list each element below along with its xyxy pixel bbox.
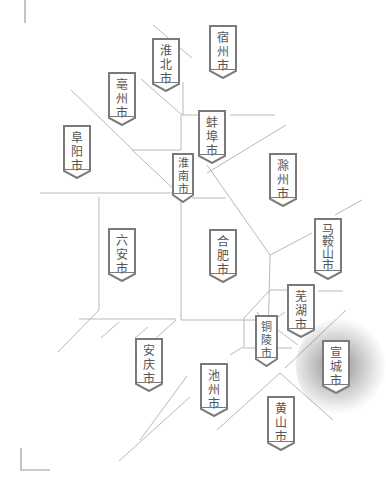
city-char: 池 xyxy=(208,369,220,383)
city-char: 南 xyxy=(178,170,189,183)
city-char: 市 xyxy=(116,106,128,120)
city-char: 六 xyxy=(116,234,128,248)
city-char: 亳 xyxy=(116,78,128,92)
city-char: 埠 xyxy=(206,130,218,144)
city-char: 铜 xyxy=(261,321,272,334)
city-badge-chizhou[interactable]: 池州市 xyxy=(200,363,228,417)
city-badge-chuzhou[interactable]: 滁州市 xyxy=(269,153,297,207)
city-badge-hefei[interactable]: 合肥市 xyxy=(209,229,237,283)
city-char: 宿 xyxy=(217,31,229,45)
city-badge-maanshan[interactable]: 马鞍山市 xyxy=(314,218,342,280)
city-char: 市 xyxy=(295,318,307,332)
city-char: 市 xyxy=(217,263,229,277)
city-char: 市 xyxy=(277,187,289,201)
city-char: 安 xyxy=(116,248,128,262)
city-char: 山 xyxy=(275,416,287,430)
city-badge-huaibei[interactable]: 淮北市 xyxy=(152,38,180,92)
city-char: 淮 xyxy=(160,44,172,58)
city-char: 芜 xyxy=(295,290,307,304)
city-char: 市 xyxy=(275,430,287,444)
city-badge-tongling[interactable]: 铜陵市 xyxy=(255,315,278,367)
city-char: 州 xyxy=(277,173,289,187)
city-badge-anqing[interactable]: 安庆市 xyxy=(135,338,163,392)
city-badge-suzhou[interactable]: 宿州市 xyxy=(209,25,237,79)
city-char: 蚌 xyxy=(206,116,218,130)
city-char: 城 xyxy=(330,360,342,374)
city-badge-bengbu[interactable]: 蚌埠市 xyxy=(198,110,226,164)
city-badge-xuancheng[interactable]: 宣城市 xyxy=(322,340,350,394)
city-char: 合 xyxy=(217,235,229,249)
city-char: 市 xyxy=(116,262,128,276)
city-char: 市 xyxy=(206,144,218,158)
city-char: 市 xyxy=(178,183,189,196)
city-char: 陵 xyxy=(261,334,272,347)
city-char: 庆 xyxy=(143,358,155,372)
frame-bottom-left xyxy=(21,448,50,470)
city-badge-wuhu[interactable]: 芜湖市 xyxy=(287,284,315,338)
city-badge-luan[interactable]: 六安市 xyxy=(108,228,136,282)
city-char: 淮 xyxy=(178,157,189,170)
city-char: 黄 xyxy=(275,402,287,416)
city-badge-fuyang[interactable]: 阜阳市 xyxy=(63,125,91,179)
city-char: 州 xyxy=(217,45,229,59)
city-char: 湖 xyxy=(295,304,307,318)
city-char: 市 xyxy=(208,397,220,411)
city-char: 安 xyxy=(143,344,155,358)
city-char: 肥 xyxy=(217,249,229,263)
city-char: 市 xyxy=(330,374,342,388)
city-char: 州 xyxy=(208,383,220,397)
city-char: 市 xyxy=(261,347,272,360)
city-char: 市 xyxy=(160,72,172,86)
city-char: 市 xyxy=(322,260,334,272)
city-badge-huainan[interactable]: 淮南市 xyxy=(172,153,194,203)
city-char: 阳 xyxy=(71,145,83,159)
city-char: 滁 xyxy=(277,159,289,173)
city-char: 市 xyxy=(217,59,229,73)
city-char: 州 xyxy=(116,92,128,106)
city-char: 市 xyxy=(71,159,83,173)
city-badge-bozhou[interactable]: 亳州市 xyxy=(108,72,136,126)
city-char: 阜 xyxy=(71,131,83,145)
city-char: 市 xyxy=(143,372,155,386)
city-char: 宣 xyxy=(330,346,342,360)
city-badge-huangshan[interactable]: 黄山市 xyxy=(267,396,295,451)
city-char: 北 xyxy=(160,58,172,72)
